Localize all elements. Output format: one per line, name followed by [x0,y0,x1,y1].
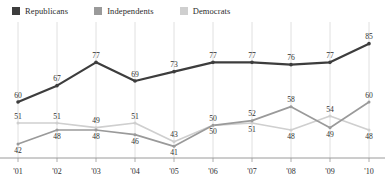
data-point [56,122,59,125]
legend-item-republicans: Republicans [12,6,68,16]
gridlines [18,22,369,158]
x-tick-label: '03 [91,167,100,176]
x-tick-label: '07 [247,167,256,176]
data-point [251,119,254,122]
data-point-label: 41 [170,148,178,157]
data-point-label: 51 [14,112,22,121]
chart-screenshot: Republicans Independents Democrats 60677… [0,0,390,191]
x-tick-label: '08 [286,167,295,176]
data-point-label: 51 [53,112,61,121]
data-point-label: 48 [365,132,373,141]
x-tick-label: '02 [52,167,61,176]
data-point [94,61,98,65]
data-point-label: 77 [209,51,217,60]
chart-canvas: 6067776973777776778542484846415052584960… [0,22,390,191]
data-point [211,61,215,65]
chart-legend: Republicans Independents Democrats [0,0,390,22]
legend-item-democrats: Democrats [180,6,231,16]
data-point-label: 43 [170,130,178,139]
data-point [55,84,59,88]
data-point-label: 50 [209,114,217,123]
axis-baseline [0,158,385,162]
data-point-label: 67 [53,74,61,83]
x-tick-label: '10 [364,167,373,176]
data-point-label: 48 [92,132,100,141]
data-point [368,101,371,104]
data-point [172,70,176,74]
data-point [16,100,20,104]
data-point-label: 58 [287,95,295,104]
x-tick-label: '09 [325,167,334,176]
square-swatch-icon [94,7,102,15]
data-point [367,42,371,46]
data-point-label: 60 [365,91,373,100]
data-point-label: 60 [14,91,22,100]
legend-label: Democrats [193,6,231,16]
data-point-label: 77 [92,51,100,60]
x-axis-tick-labels: '01'02'03'04'05'06'07'08'09'10 [13,167,373,176]
square-swatch-icon [12,7,20,15]
data-point-label: 51 [248,125,256,134]
x-tick-label: '01 [13,167,22,176]
data-point-label: 49 [326,130,334,139]
data-point-label: 49 [92,116,100,125]
series-markers [16,42,371,148]
data-point [250,61,254,65]
x-tick-label: '06 [208,167,217,176]
data-point-label: 52 [248,109,256,118]
data-point-label: 54 [326,105,334,114]
data-point-label: 76 [287,53,295,62]
square-swatch-icon [180,7,188,15]
data-point [173,140,176,143]
data-point-label: 50 [209,127,217,136]
data-point [17,122,20,125]
data-point-label: 69 [131,70,139,79]
data-point [328,61,332,65]
data-point-label: 48 [287,132,295,141]
legend-label: Independents [107,6,154,16]
data-point-label: 77 [326,51,334,60]
series-line [18,44,369,102]
x-tick-label: '05 [169,167,178,176]
data-point-label: 85 [365,32,373,41]
data-point [134,122,137,125]
legend-item-independents: Independents [94,6,154,16]
data-point-label: 77 [248,51,256,60]
line-chart: 6067776973777776778542484846415052584960… [0,22,390,191]
series-lines [18,44,369,147]
data-point [329,115,332,118]
data-point-label: 51 [131,112,139,121]
value-labels: 6067776973777776778542484846415052584960… [14,32,373,157]
data-point [289,63,293,67]
x-tick-label: '04 [130,167,139,176]
legend-label: Republicans [25,6,68,16]
data-point-label: 48 [53,132,61,141]
data-point-label: 46 [131,137,139,146]
data-point [290,105,293,108]
data-point-label: 73 [170,60,178,69]
data-point-label: 42 [14,146,22,155]
data-point [133,79,137,83]
